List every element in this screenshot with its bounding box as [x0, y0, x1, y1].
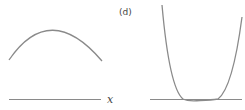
figure-canvas: x (d): [0, 0, 245, 110]
left-panel: x: [9, 30, 114, 106]
left-curve: [9, 30, 102, 61]
x-axis-label: x: [107, 93, 114, 106]
right-panel: [150, 5, 242, 101]
panel-label: (d): [119, 7, 132, 17]
right-curve: [162, 5, 242, 101]
